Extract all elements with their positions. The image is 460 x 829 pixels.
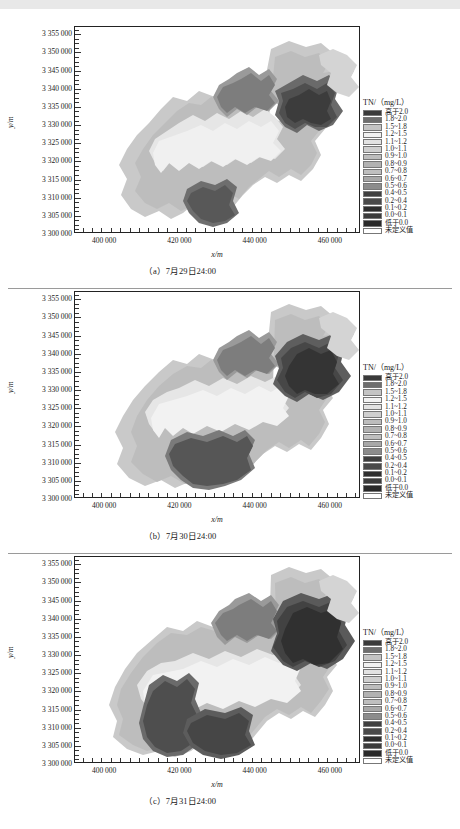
legend-item: 1.0~1.1 [363, 411, 457, 418]
legend-item: 0.7~0.8 [363, 168, 457, 175]
x-axis-ticks-a: 400 000420 000440 000460 000 [74, 236, 360, 250]
legend-item: 1.0~1.1 [363, 676, 457, 683]
legend-label: 未定义值 [385, 227, 413, 234]
legend-item: 0.6~0.7 [363, 441, 457, 448]
legend-item: 0.9~1.0 [363, 683, 457, 690]
contour-plot-c [74, 556, 360, 763]
y-tick-label: 3 350 000 [42, 577, 72, 586]
legend-swatch [363, 448, 382, 454]
y-tick-label: 3 340 000 [42, 83, 72, 92]
y-tick-label: 3 355 000 [42, 294, 72, 303]
x-tick-label: 420 000 [167, 766, 191, 775]
x-tick-label: 400 000 [92, 236, 116, 245]
contour-plot-a [74, 26, 360, 233]
y-tick-label: 3 315 000 [42, 174, 72, 183]
legend-label: 未定义值 [385, 757, 413, 764]
y-tick-label: 3 335 000 [42, 366, 72, 375]
y-tick-label: 3 330 000 [42, 120, 72, 129]
y-tick-label: 3 340 000 [42, 348, 72, 357]
y-tick-label: 3 350 000 [42, 47, 72, 56]
legend-swatch [363, 213, 382, 219]
legend-item: 0.5~0.6 [363, 713, 457, 720]
y-axis-ticks-a: 3 355 0003 350 0003 345 0003 340 0003 33… [10, 18, 72, 233]
legend-swatch [363, 493, 382, 499]
x-tick-label: 440 000 [242, 236, 266, 245]
legend-item: 0.8~0.9 [363, 426, 457, 433]
legend-item: 0.2~0.4 [363, 728, 457, 735]
y-tick-label: 3 355 000 [42, 559, 72, 568]
legend-item: 1.1~1.2 [363, 139, 457, 146]
x-tick-label: 460 000 [318, 236, 342, 245]
legend-item: 0.1~0.2 [363, 205, 457, 212]
x-tick-label: 440 000 [242, 766, 266, 775]
legend-swatch [363, 478, 382, 484]
contour-bands-b [115, 304, 359, 490]
y-tick-label: 3 345 000 [42, 65, 72, 74]
legend-item: 1.8~2.0 [363, 381, 457, 388]
y-tick-label: 3 330 000 [42, 650, 72, 659]
legend-swatch [363, 220, 382, 226]
legend-item: 1.2~1.5 [363, 396, 457, 403]
legend-item: 0.9~1.0 [363, 153, 457, 160]
legend-swatch [363, 662, 382, 668]
x-axis-label-b: x/m [74, 515, 360, 524]
legend-swatch [363, 736, 382, 742]
legend-swatch [363, 721, 382, 727]
legend-title-c: TN/（mg/L） [363, 626, 457, 637]
legend-swatch [363, 110, 382, 116]
legend-item: 未定义值 [363, 757, 457, 764]
legend-item: 0.5~0.6 [363, 183, 457, 190]
legend-item: 0.6~0.7 [363, 176, 457, 183]
legend-swatch [363, 434, 382, 440]
y-tick-label: 3 315 000 [42, 439, 72, 448]
y-axis-ticks-b: 3 355 0003 350 0003 345 0003 340 0003 33… [10, 283, 72, 498]
legend-item: 高于2.0 [363, 639, 457, 646]
panel-caption-a: （a）7月29日24:00 [0, 264, 360, 276]
y-tick-label: 3 310 000 [42, 457, 72, 466]
y-tick-label: 3 300 000 [42, 229, 72, 238]
y-tick-label: 3 300 000 [42, 759, 72, 768]
legend-item: 0.2~0.4 [363, 463, 457, 470]
legend-label: 未定义值 [385, 492, 413, 499]
legend-swatch [363, 426, 382, 432]
y-tick-label: 3 325 000 [42, 668, 72, 677]
legend-swatch [363, 743, 382, 749]
x-tick-label: 420 000 [167, 236, 191, 245]
legend-title-a: TN/（mg/L） [363, 96, 457, 107]
y-tick-label: 3 330 000 [42, 385, 72, 394]
x-axis-label-a: x/m [74, 250, 360, 259]
legend-swatch [363, 375, 382, 381]
y-tick-label: 3 325 000 [42, 403, 72, 412]
legend-item: 未定义值 [363, 227, 457, 234]
y-tick-label: 3 310 000 [42, 722, 72, 731]
legend-item: 0.7~0.8 [363, 433, 457, 440]
figure-panel-c: y/m 3 355 0003 350 0003 345 0003 340 000… [0, 548, 460, 813]
legend-swatch [363, 404, 382, 410]
figure-panel-a: y/m 3 355 0003 350 0003 345 0003 340 000… [0, 18, 460, 283]
legend-swatch [363, 456, 382, 462]
x-axis-label-c: x/m [74, 780, 360, 789]
legend-item: 0.6~0.7 [363, 706, 457, 713]
y-tick-label: 3 340 000 [42, 613, 72, 622]
legend-swatch [363, 684, 382, 690]
y-tick-label: 3 345 000 [42, 595, 72, 604]
legend-rows-a: 高于2.01.8~2.01.5~1.81.2~1.51.1~1.21.0~1.1… [363, 109, 457, 235]
legend-swatch [363, 389, 382, 395]
y-tick-label: 3 315 000 [42, 704, 72, 713]
legend-item: 1.0~1.1 [363, 146, 457, 153]
legend-item: 0.2~0.4 [363, 198, 457, 205]
legend-swatch [363, 206, 382, 212]
y-tick-label: 3 305 000 [42, 475, 72, 484]
legend-item: 1.5~1.8 [363, 654, 457, 661]
x-axis-ticks-c: 400 000420 000440 000460 000 [74, 766, 360, 780]
y-tick-label: 3 355 000 [42, 29, 72, 38]
legend-swatch [363, 124, 382, 130]
y-tick-label: 3 305 000 [42, 740, 72, 749]
x-tick-label: 440 000 [242, 501, 266, 510]
figure-panel-b: y/m 3 355 0003 350 0003 345 0003 340 000… [0, 283, 460, 548]
y-axis-ticks-c: 3 355 0003 350 0003 345 0003 340 0003 33… [10, 548, 72, 763]
x-tick-label: 400 000 [92, 501, 116, 510]
legend-swatch [363, 161, 382, 167]
x-tick-label: 460 000 [318, 766, 342, 775]
legend-swatch [363, 154, 382, 160]
